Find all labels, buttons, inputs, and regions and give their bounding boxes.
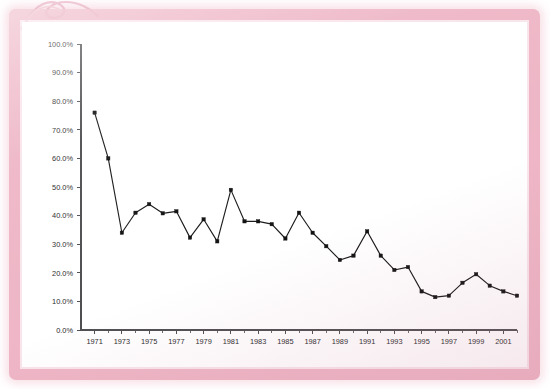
y-tick-label: 60.0% — [52, 154, 73, 163]
figure-root: 0.0%10.0%20.0%30.0%40.0%50.0%60.0%70.0%8… — [0, 0, 550, 389]
data-point-marker — [311, 231, 314, 234]
data-point-markers — [93, 111, 519, 299]
x-tick-label: 1993 — [386, 337, 402, 346]
x-tick-label: 1995 — [413, 337, 429, 346]
x-tick-label: 1979 — [195, 337, 211, 346]
x-tick-label: 1991 — [359, 337, 375, 346]
x-tick-label: 1981 — [223, 337, 239, 346]
data-point-marker — [325, 245, 328, 248]
y-tick-label: 40.0% — [52, 211, 73, 220]
x-tick-label: 1975 — [141, 337, 157, 346]
data-point-marker — [161, 212, 164, 215]
data-point-marker — [474, 273, 477, 276]
y-tick-label: 80.0% — [52, 97, 73, 106]
y-tick-label: 70.0% — [52, 126, 73, 135]
data-point-marker — [188, 236, 191, 239]
data-point-marker — [216, 240, 219, 243]
x-tick-label: 1983 — [250, 337, 266, 346]
chart-panel: 0.0%10.0%20.0%30.0%40.0%50.0%60.0%70.0%8… — [22, 22, 527, 367]
data-point-marker — [134, 211, 137, 214]
y-tick-label: 90.0% — [52, 68, 73, 77]
data-point-marker — [379, 254, 382, 257]
data-point-marker — [447, 294, 450, 297]
x-tick-label: 1985 — [277, 337, 293, 346]
data-point-marker — [515, 294, 518, 297]
data-point-marker — [202, 218, 205, 221]
x-tick-label: 1977 — [168, 337, 184, 346]
y-tick-label: 10.0% — [52, 297, 73, 306]
data-point-marker — [229, 188, 232, 191]
line-chart: 0.0%10.0%20.0%30.0%40.0%50.0%60.0%70.0%8… — [22, 22, 527, 367]
y-tick-label: 50.0% — [52, 183, 73, 192]
x-tick-label: 1999 — [468, 337, 484, 346]
data-point-marker — [243, 220, 246, 223]
data-point-marker — [461, 281, 464, 284]
y-axis-ticks: 0.0%10.0%20.0%30.0%40.0%50.0%60.0%70.0%8… — [48, 40, 81, 335]
data-point-marker — [120, 231, 123, 234]
x-tick-label: 1987 — [304, 337, 320, 346]
x-tick-label: 1971 — [86, 337, 102, 346]
y-tick-label: 30.0% — [52, 240, 73, 249]
data-point-marker — [147, 202, 150, 205]
data-point-marker — [434, 295, 437, 298]
data-point-marker — [297, 211, 300, 214]
x-axis-ticks: 1971197319751977197919811983198519871989… — [86, 330, 517, 346]
data-point-marker — [488, 284, 491, 287]
data-point-marker — [93, 111, 96, 114]
data-point-marker — [256, 220, 259, 223]
data-point-marker — [502, 290, 505, 293]
y-tick-label: 100.0% — [48, 40, 73, 49]
y-tick-label: 20.0% — [52, 269, 73, 278]
data-point-marker — [393, 268, 396, 271]
data-point-marker — [365, 230, 368, 233]
x-tick-label: 2001 — [495, 337, 511, 346]
data-point-marker — [107, 157, 110, 160]
data-point-marker — [420, 290, 423, 293]
data-point-marker — [270, 222, 273, 225]
data-point-marker — [338, 258, 341, 261]
x-tick-label: 1989 — [332, 337, 348, 346]
data-point-marker — [175, 210, 178, 213]
x-tick-label: 1997 — [441, 337, 457, 346]
data-point-marker — [352, 254, 355, 257]
y-tick-label: 0.0% — [56, 326, 73, 335]
data-point-marker — [284, 237, 287, 240]
data-series-line — [95, 113, 517, 297]
x-tick-label: 1973 — [114, 337, 130, 346]
data-point-marker — [406, 265, 409, 268]
